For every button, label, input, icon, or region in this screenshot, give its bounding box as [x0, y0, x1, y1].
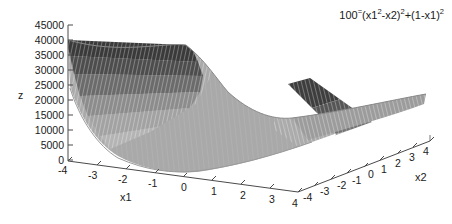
x1-tick-label: -2 — [118, 174, 127, 185]
x1-tick-label: 2 — [240, 190, 246, 201]
z-tick-label: 25000 — [24, 80, 64, 91]
x2-tick-label: 1 — [381, 164, 387, 175]
x1-tick-label: -1 — [148, 178, 157, 189]
title-exp-c: 2 — [440, 7, 444, 16]
z-axis-label: z — [18, 90, 23, 101]
z-tick-label: 40000 — [24, 35, 64, 46]
x2-tick-label: -2 — [337, 180, 346, 191]
z-tick-label: 15000 — [24, 110, 64, 121]
z-tick-label: 5000 — [24, 140, 64, 151]
surface-plot-figure: 100=(x12-x2)2+(1-x1)2 z x1 x2 4500040000… — [0, 0, 452, 224]
z-tick-label: 30000 — [24, 65, 64, 76]
x2-tick-label: 2 — [395, 158, 401, 169]
x2-tick-label: 0 — [368, 169, 374, 180]
title-coefficient: 100 — [339, 9, 357, 21]
x1-tick-label: 3 — [269, 194, 275, 205]
x1-tick-label: 0 — [181, 182, 187, 193]
title-body-c: +(1-x1) — [405, 9, 440, 21]
x1-tick-label: -3 — [88, 170, 97, 181]
x2-axis-label: x2 — [415, 172, 427, 183]
title-body-a: (x1 — [362, 9, 377, 21]
x1-tick-label: 4 — [292, 198, 298, 209]
x2-tick-label: 3 — [409, 152, 415, 163]
x2-tick-label: -3 — [320, 186, 329, 197]
x2-tick-label: -1 — [352, 175, 361, 186]
z-tick-label: 45000 — [24, 20, 64, 31]
z-tick-label: 10000 — [24, 125, 64, 136]
x1-tick-label: -4 — [58, 165, 67, 176]
z-tick-label: 20000 — [24, 95, 64, 106]
surface-mesh — [60, 34, 426, 172]
x1-tick-label: 1 — [211, 186, 217, 197]
x2-tick-label: 4 — [423, 146, 429, 157]
plot-title: 100=(x12-x2)2+(1-x1)2 — [339, 8, 444, 21]
x1-axis-label: x1 — [120, 192, 132, 203]
title-body-b: -x2) — [382, 9, 401, 21]
plot-canvas — [0, 0, 452, 224]
z-tick-label: 35000 — [24, 50, 64, 61]
x2-tick-label: -4 — [303, 192, 312, 203]
